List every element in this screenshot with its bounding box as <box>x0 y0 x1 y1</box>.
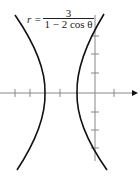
equation-fraction: 3 1 − 2 cos θ <box>43 8 93 30</box>
x-axis-arrow-icon <box>132 90 138 96</box>
polar-hyperbola-figure: r = 3 1 − 2 cos θ <box>0 0 140 177</box>
right-branch-curve <box>77 14 107 170</box>
equation-denominator: 1 − 2 cos θ <box>43 18 93 30</box>
equation-label: r = 3 1 − 2 cos θ <box>27 8 94 30</box>
equation-lhs: r = <box>27 13 41 25</box>
equation-numerator: 3 <box>66 8 72 18</box>
